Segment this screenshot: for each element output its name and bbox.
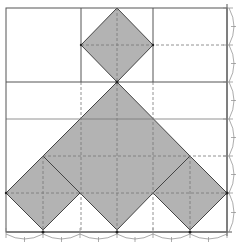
right-measure-arcs [223, 8, 236, 232]
crease-pattern-diagram [0, 0, 238, 247]
